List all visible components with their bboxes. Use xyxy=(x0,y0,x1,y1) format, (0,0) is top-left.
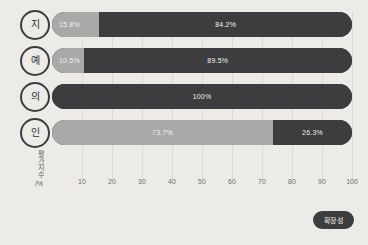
category-marker[interactable]: 지 xyxy=(20,10,50,40)
bar-segment-label: 84.2% xyxy=(215,21,236,28)
category-marker[interactable]: 인 xyxy=(20,118,50,148)
x-axis-tick-label: 100 xyxy=(346,178,358,185)
category-marker-label: 인 xyxy=(31,128,40,138)
chart-row: 100% xyxy=(52,84,352,109)
stacked-bar[interactable]: 73.7%26.3% xyxy=(52,120,352,145)
y-axis-label: 평가지수 /% xyxy=(30,150,50,194)
y-axis-label-text: 평가지수 xyxy=(37,150,44,178)
category-marker-label: 의 xyxy=(31,92,40,102)
gridline xyxy=(352,12,353,180)
x-axis-tick-label: 60 xyxy=(228,178,236,185)
category-marker[interactable]: 예 xyxy=(20,46,50,76)
y-axis-unit: /% xyxy=(35,180,43,187)
stacked-bar[interactable]: 15.8%84.2% xyxy=(52,12,352,37)
chart-row: 10.5%89.5% xyxy=(52,48,352,73)
chart-row: 15.8%84.2% xyxy=(52,12,352,37)
bar-segment-label: 73.7% xyxy=(152,129,173,136)
x-axis-tick-label: 30 xyxy=(138,178,146,185)
x-axis-tick-label: 70 xyxy=(258,178,266,185)
legend-badge[interactable]: 확장성 xyxy=(313,211,354,229)
x-axis-tick-label: 10 xyxy=(78,178,86,185)
x-axis: 102030405060708090100 xyxy=(52,178,352,192)
bar-segment-dark[interactable]: 84.2% xyxy=(99,12,352,37)
bar-segment-label: 10.5% xyxy=(59,57,80,64)
bar-segment-dark[interactable]: 26.3% xyxy=(273,120,352,145)
bar-segment-label: 15.8% xyxy=(59,21,80,28)
bar-segment-label: 26.3% xyxy=(302,129,323,136)
chart-row: 73.7%26.3% xyxy=(52,120,352,145)
x-axis-tick-label: 40 xyxy=(168,178,176,185)
x-axis-tick-label: 20 xyxy=(108,178,116,185)
bar-segment-light[interactable]: 10.5% xyxy=(52,48,84,73)
bar-segment-dark[interactable]: 100% xyxy=(52,84,352,109)
x-axis-tick-label: 80 xyxy=(288,178,296,185)
stacked-bar-chart: 15.8%84.2%10.5%89.5%100%73.7%26.3% 10203… xyxy=(0,0,368,245)
x-axis-tick-label: 90 xyxy=(318,178,326,185)
category-marker[interactable]: 의 xyxy=(20,82,50,112)
category-marker-label: 지 xyxy=(31,20,40,30)
stacked-bar[interactable]: 100% xyxy=(52,84,352,109)
stacked-bar[interactable]: 10.5%89.5% xyxy=(52,48,352,73)
x-axis-tick-label: 50 xyxy=(198,178,206,185)
bar-segment-label: 89.5% xyxy=(207,57,228,64)
bar-segment-light[interactable]: 73.7% xyxy=(52,120,273,145)
bar-segment-light[interactable]: 15.8% xyxy=(52,12,99,37)
bar-segment-dark[interactable]: 89.5% xyxy=(84,48,353,73)
category-marker-label: 예 xyxy=(31,56,40,66)
plot-area: 15.8%84.2%10.5%89.5%100%73.7%26.3% xyxy=(52,12,352,162)
bar-segment-label: 100% xyxy=(193,93,212,100)
